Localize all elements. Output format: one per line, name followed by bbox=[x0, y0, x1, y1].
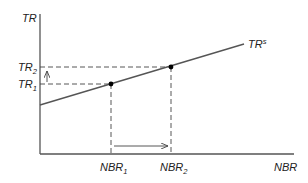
nbr1-label: NBR1 bbox=[100, 161, 127, 176]
point-nbr2-tr2 bbox=[169, 65, 174, 70]
y-axis-label: TR bbox=[22, 12, 37, 24]
tr2-label: TR2 bbox=[18, 61, 38, 76]
tr1-label: TR1 bbox=[18, 78, 37, 93]
point-nbr1-tr1 bbox=[109, 82, 114, 87]
trs-line bbox=[40, 44, 244, 105]
trs-curve-label: TRs bbox=[248, 37, 267, 50]
tr-nbr-diagram: TR TR2 TR1 TRs NBR1 NBR2 NBR bbox=[0, 0, 308, 183]
x-axis-label: NBR bbox=[274, 161, 297, 173]
nbr2-label: NBR2 bbox=[160, 161, 188, 176]
